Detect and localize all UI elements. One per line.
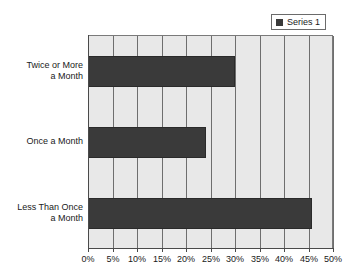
- plot-area: [88, 35, 333, 248]
- tick-mark-15%: [162, 248, 163, 252]
- category-label-2: Less Than Oncea Month: [0, 202, 83, 223]
- category-label-0: Twice or Morea Month: [0, 60, 83, 81]
- tick-mark-25%: [211, 248, 212, 252]
- y-axis-line: [88, 35, 89, 249]
- category-label-line: a Month: [0, 71, 83, 82]
- tick-mark-30%: [235, 248, 236, 252]
- bar-1: [88, 127, 206, 158]
- gridline-50%: [333, 36, 334, 249]
- bar-chart: Series 1 Twice or Morea MonthOnce a Mont…: [0, 0, 347, 277]
- category-label-line: Twice or More: [0, 60, 83, 71]
- tick-mark-0%: [88, 248, 89, 252]
- tick-mark-35%: [260, 248, 261, 252]
- category-label-line: a Month: [0, 213, 83, 224]
- tick-mark-45%: [309, 248, 310, 252]
- tick-label-50%: 50%: [318, 254, 347, 265]
- category-label-line: Less Than Once: [0, 202, 83, 213]
- bar-0: [88, 56, 235, 87]
- category-label-line: Once a Month: [0, 136, 83, 147]
- tick-mark-10%: [137, 248, 138, 252]
- bar-2: [88, 198, 312, 229]
- legend-swatch-series-1: [276, 19, 283, 26]
- category-label-1: Once a Month: [0, 136, 83, 147]
- tick-mark-20%: [186, 248, 187, 252]
- chart-legend: Series 1: [271, 14, 326, 30]
- legend-label-series-1: Series 1: [287, 18, 320, 27]
- tick-mark-50%: [333, 248, 334, 252]
- tick-mark-40%: [284, 248, 285, 252]
- tick-mark-5%: [113, 248, 114, 252]
